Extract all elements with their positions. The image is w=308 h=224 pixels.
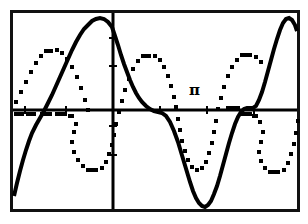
calculator-screen: π [0, 0, 308, 224]
pi-axis-label: π [189, 83, 200, 98]
plot-frame [10, 10, 300, 212]
